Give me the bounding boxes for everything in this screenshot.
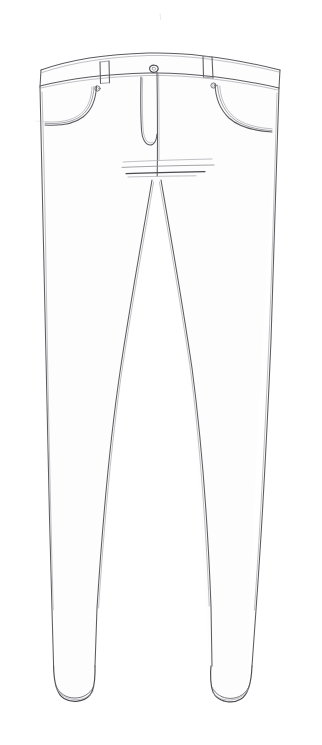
- belt-loop-left-outer-edge: [109, 61, 110, 83]
- belt-loop-right-top: [203, 57, 212, 58]
- sketch-canvas: [0, 0, 322, 745]
- belt-loop-left-inner-edge: [100, 62, 101, 84]
- belt-loop-right-inner-edge: [203, 57, 204, 78]
- jeans-technical-sketch: [0, 0, 322, 745]
